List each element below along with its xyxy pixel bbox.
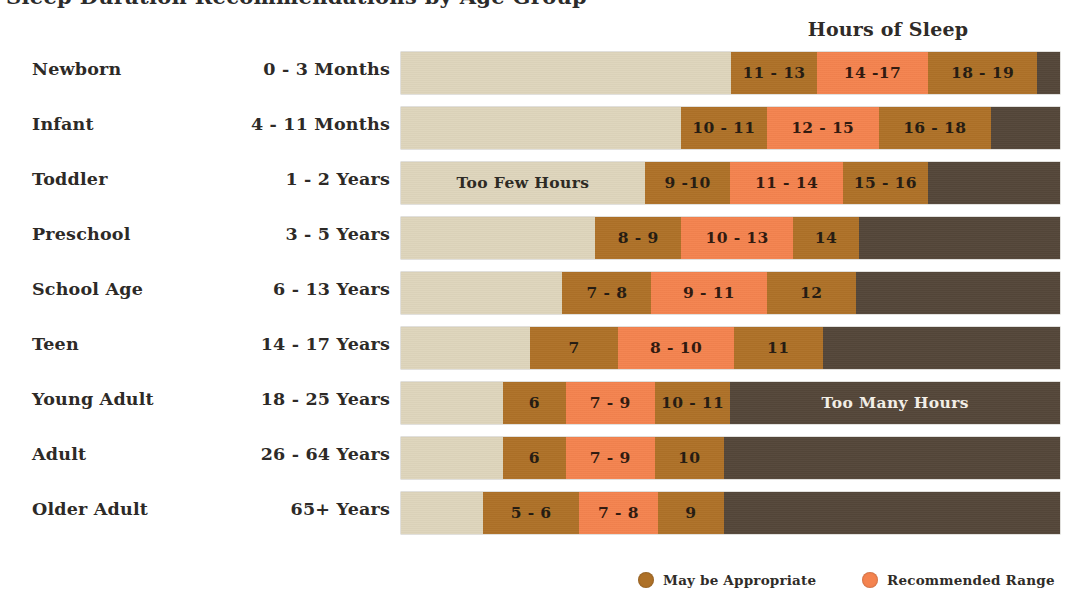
bar-segment-maybe: 10 - 11 bbox=[655, 382, 731, 424]
bar-segment-label: 5 - 6 bbox=[511, 503, 552, 522]
bar-segment-maybe: 7 - 8 bbox=[562, 272, 651, 314]
chart-row: Toddler1 - 2 YearsToo Few Hours9 -1011 -… bbox=[0, 158, 1083, 206]
bar-segment-few bbox=[401, 382, 503, 424]
bar-segment-maybe: 6 bbox=[503, 437, 566, 479]
bar-segment-label: 7 bbox=[568, 338, 579, 357]
stacked-bar: 67 - 910 - 11Too Many Hours bbox=[401, 382, 1060, 424]
row-age-range: 18 - 25 Years bbox=[190, 389, 390, 409]
chart-row: Older Adult65+ Years5 - 67 - 89 bbox=[0, 488, 1083, 536]
chart-row: Preschool3 - 5 Years8 - 910 - 1314 bbox=[0, 213, 1083, 261]
chart-row: Teen14 - 17 Years78 - 1011 bbox=[0, 323, 1083, 371]
bar-segment-label: 14 -17 bbox=[844, 63, 901, 82]
stacked-bar: 5 - 67 - 89 bbox=[401, 492, 1060, 534]
chart-row: Infant4 - 11 Months10 - 1112 - 1516 - 18 bbox=[0, 103, 1083, 151]
chart-row: Young Adult18 - 25 Years67 - 910 - 11Too… bbox=[0, 378, 1083, 426]
bar-segment-label: 7 - 9 bbox=[590, 448, 631, 467]
bar-segment-few bbox=[401, 107, 681, 149]
row-age-range: 26 - 64 Years bbox=[190, 444, 390, 464]
bar-segment-rec: 11 - 14 bbox=[730, 162, 842, 204]
stacked-bar: 10 - 1112 - 1516 - 18 bbox=[401, 107, 1060, 149]
bar-segment-many bbox=[724, 437, 1060, 479]
bar-segment-label: 7 - 8 bbox=[587, 283, 628, 302]
chart-row: Adult26 - 64 Years67 - 910 bbox=[0, 433, 1083, 481]
bar-segment-label: 6 bbox=[529, 393, 540, 412]
bar-segment-rec: 7 - 8 bbox=[579, 492, 658, 534]
stacked-bar: 8 - 910 - 1314 bbox=[401, 217, 1060, 259]
bar-segment-label: 9 bbox=[685, 503, 696, 522]
bar-segment-many: Too Many Hours bbox=[730, 382, 1060, 424]
stacked-bar: Too Few Hours9 -1011 - 1415 - 16 bbox=[401, 162, 1060, 204]
bar-segment-maybe: 11 - 13 bbox=[731, 52, 817, 94]
chart-row: School Age6 - 13 Years7 - 89 - 1112 bbox=[0, 268, 1083, 316]
row-age-range: 4 - 11 Months bbox=[190, 114, 390, 134]
bar-segment-label: 18 - 19 bbox=[951, 63, 1014, 82]
chart-legend: May be Appropriate Recommended Range bbox=[0, 566, 1083, 600]
bar-segment-rec: 8 - 10 bbox=[618, 327, 733, 369]
stacked-bar: 78 - 1011 bbox=[401, 327, 1060, 369]
bar-segment-maybe: 10 - 11 bbox=[681, 107, 767, 149]
bar-segment-rec: 14 -17 bbox=[817, 52, 928, 94]
bar-segment-maybe: 11 bbox=[734, 327, 823, 369]
bar-segment-rec: 7 - 9 bbox=[566, 437, 655, 479]
bar-segment-label: 12 bbox=[800, 283, 822, 302]
bar-segment-maybe: 5 - 6 bbox=[483, 492, 579, 534]
bar-segment-many bbox=[724, 492, 1060, 534]
legend-dot-orange-icon bbox=[862, 572, 878, 588]
chart-row: Newborn0 - 3 Months11 - 1314 -1718 - 19 bbox=[0, 48, 1083, 96]
bar-segment-maybe: 14 bbox=[793, 217, 859, 259]
bar-segment-few bbox=[401, 272, 562, 314]
bar-segment-maybe: 7 bbox=[530, 327, 619, 369]
bar-segment-maybe: 8 - 9 bbox=[595, 217, 681, 259]
bar-segment-rec: 7 - 9 bbox=[566, 382, 655, 424]
bar-segment-few bbox=[401, 492, 483, 534]
legend-dot-brown-icon bbox=[638, 572, 654, 588]
bar-segment-rec: 12 - 15 bbox=[767, 107, 879, 149]
bar-segment-few bbox=[401, 217, 595, 259]
bar-segment-label: 7 - 8 bbox=[598, 503, 639, 522]
bar-segment-label: 11 - 13 bbox=[742, 63, 805, 82]
bar-segment-label: 10 - 13 bbox=[705, 228, 768, 247]
row-age-range: 1 - 2 Years bbox=[190, 169, 390, 189]
bar-segment-maybe: 6 bbox=[503, 382, 566, 424]
bar-segment-label: 14 bbox=[815, 228, 837, 247]
x-axis-caption: Hours of Sleep bbox=[798, 18, 978, 40]
stacked-bar: 11 - 1314 -1718 - 19 bbox=[401, 52, 1060, 94]
bar-segment-label: 12 - 15 bbox=[791, 118, 854, 137]
row-age-range: 65+ Years bbox=[190, 499, 390, 519]
bar-segment-label: 6 bbox=[529, 448, 540, 467]
bar-segment-label: 10 bbox=[678, 448, 700, 467]
bar-segment-many bbox=[991, 107, 1060, 149]
bar-segment-label: 10 - 11 bbox=[661, 393, 724, 412]
bar-segment-few bbox=[401, 437, 503, 479]
bar-segment-maybe: 15 - 16 bbox=[843, 162, 929, 204]
stacked-bar: 7 - 89 - 1112 bbox=[401, 272, 1060, 314]
bar-segment-label: 11 - 14 bbox=[755, 173, 818, 192]
bar-segment-label: 8 - 10 bbox=[650, 338, 702, 357]
bar-segment-label: 16 - 18 bbox=[903, 118, 966, 137]
row-age-range: 14 - 17 Years bbox=[190, 334, 390, 354]
bar-segment-maybe: 9 bbox=[658, 492, 724, 534]
bar-segment-few bbox=[401, 327, 530, 369]
row-age-range: 6 - 13 Years bbox=[190, 279, 390, 299]
bar-segment-maybe: 18 - 19 bbox=[928, 52, 1037, 94]
bar-segment-label: Too Few Hours bbox=[456, 173, 589, 192]
bar-segment-maybe: 12 bbox=[767, 272, 856, 314]
bar-segment-few bbox=[401, 52, 731, 94]
legend-label-may-be-appropriate: May be Appropriate bbox=[663, 572, 816, 588]
bar-segment-few: Too Few Hours bbox=[401, 162, 645, 204]
row-age-range: 0 - 3 Months bbox=[190, 59, 390, 79]
bar-segment-rec: 9 - 11 bbox=[651, 272, 766, 314]
legend-item-may-be-appropriate: May be Appropriate bbox=[638, 572, 816, 588]
bar-segment-maybe: 16 - 18 bbox=[879, 107, 991, 149]
bar-segment-many bbox=[859, 217, 1060, 259]
legend-label-recommended-range: Recommended Range bbox=[887, 572, 1055, 588]
bar-segment-many bbox=[856, 272, 1060, 314]
bar-segment-label: 7 - 9 bbox=[590, 393, 631, 412]
bar-segment-label: 10 - 11 bbox=[692, 118, 755, 137]
bar-segment-label: Too Many Hours bbox=[821, 393, 968, 412]
bar-segment-maybe: 10 bbox=[655, 437, 724, 479]
bar-segment-rec: 10 - 13 bbox=[681, 217, 793, 259]
bar-segment-maybe: 9 -10 bbox=[645, 162, 731, 204]
sleep-duration-chart: Sleep Duration Recommendations by Age Gr… bbox=[0, 0, 1083, 616]
bar-segment-label: 9 -10 bbox=[665, 173, 711, 192]
